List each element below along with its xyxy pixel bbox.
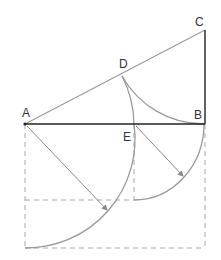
arc-d-to-e xyxy=(122,76,134,124)
label-a: A xyxy=(22,106,30,120)
label-d: D xyxy=(119,57,128,71)
large-arc-e-to-bottom xyxy=(25,124,135,248)
label-c: C xyxy=(195,15,204,29)
radius-arrow-large xyxy=(27,126,107,210)
label-e: E xyxy=(123,130,131,144)
point-a-marker xyxy=(23,122,26,125)
geometry-diagram: A B C D E xyxy=(0,0,221,260)
radius-arrows xyxy=(27,126,183,210)
triangle-abc xyxy=(25,30,205,124)
label-b: B xyxy=(194,108,202,122)
arcs xyxy=(25,76,204,248)
radius-arrow-small xyxy=(136,126,183,176)
segment-ac xyxy=(25,30,205,124)
dashed-construction-lines xyxy=(25,124,205,248)
